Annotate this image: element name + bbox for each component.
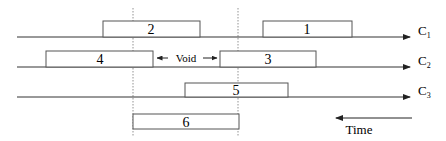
svg-text:2: 2 — [148, 22, 155, 37]
svg-text:5: 5 — [233, 83, 240, 98]
interval-box-4: 4 — [46, 51, 153, 67]
channel-label-c2: C2 — [418, 53, 431, 70]
svg-text:1: 1 — [304, 22, 311, 37]
time-direction-arrow: Time — [336, 118, 412, 137]
svg-text:3: 3 — [265, 52, 272, 67]
svg-text:4: 4 — [97, 52, 104, 67]
channel-label-c3: C3 — [418, 83, 431, 100]
interval-box-2: 2 — [103, 21, 200, 37]
interval-box-6: 6 — [133, 114, 239, 130]
interval-box-1: 1 — [263, 21, 352, 37]
void-gap-indicator: Void — [157, 52, 217, 64]
interval-box-5: 5 — [185, 83, 288, 98]
time-label: Time — [346, 122, 373, 137]
interval-box-3: 3 — [220, 51, 316, 67]
svg-text:6: 6 — [183, 115, 190, 130]
void-label: Void — [176, 52, 197, 64]
channel-label-c1: C1 — [418, 23, 431, 40]
timeline-diagram: C1 C2 C3 2 1 4 3 Void 5 6 Time — [0, 0, 446, 141]
